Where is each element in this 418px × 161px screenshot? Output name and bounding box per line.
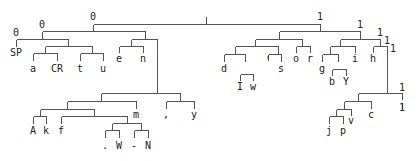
leaf-symbol: .	[102, 140, 108, 151]
branch-bit-label: 1	[317, 11, 323, 22]
leaf-symbol: Y	[343, 76, 349, 87]
leaf-symbol: n	[140, 53, 146, 64]
leaf-symbol: A	[30, 125, 36, 136]
leaf-symbol: I	[237, 81, 243, 92]
leaf-symbol: g	[319, 63, 325, 74]
leaf-symbol: W	[116, 140, 123, 151]
leaf-symbol: p	[340, 125, 346, 136]
leaf-symbol: CR	[51, 63, 64, 74]
tree-svg: 0100111111 SPaCRtuenAkfm.W-N,ydIw'sorgbY…	[0, 0, 418, 161]
branch-bit-label: 0	[39, 19, 45, 30]
branch-bit-label: 0	[90, 11, 96, 22]
leaf-symbol: m	[133, 109, 139, 120]
branch-bit-label: 1	[357, 19, 363, 30]
leaf-symbol: h	[370, 53, 376, 64]
leaf-symbol: f	[58, 125, 64, 136]
branch-bit-label: 0	[13, 27, 19, 38]
leaf-symbol: r	[307, 53, 313, 64]
branch-bit-label: 1	[399, 82, 405, 93]
leaf-symbol: u	[100, 63, 106, 74]
leaf-symbol: N	[145, 140, 151, 151]
leaf-symbol: -	[131, 140, 137, 151]
leaf-symbol: i	[352, 53, 358, 64]
leaf-symbol: c	[368, 109, 374, 120]
leaf-symbol: e	[116, 53, 122, 64]
leaf-symbol: ,	[163, 109, 169, 120]
leaf-symbol: j	[326, 125, 332, 136]
leaf-symbol: o	[293, 53, 299, 64]
leaf-symbol: '	[265, 55, 271, 66]
branch-bit-label: 1	[390, 43, 396, 54]
branch-bit-label: 1	[399, 102, 405, 113]
branch-bit-labels: 0100111111	[13, 11, 405, 113]
leaf-symbol: d	[221, 63, 227, 74]
leaf-symbol: SP	[10, 47, 22, 58]
leaf-symbol-labels: SPaCRtuenAkfm.W-N,ydIw'sorgbYihjpvc	[10, 47, 376, 151]
leaf-symbol: s	[278, 63, 284, 74]
leaf-symbol: b	[329, 76, 335, 87]
leaf-symbol: w	[250, 81, 257, 92]
leaf-symbol: y	[191, 109, 197, 120]
code-tree-diagram: 0100111111 SPaCRtuenAkfm.W-N,ydIw'sorgbY…	[0, 0, 418, 161]
leaf-symbol: v	[348, 115, 354, 126]
leaf-symbol: k	[43, 125, 49, 136]
leaf-symbol: a	[30, 63, 36, 74]
branch-bit-label: 1	[377, 27, 383, 38]
leaf-symbol: t	[77, 63, 83, 74]
